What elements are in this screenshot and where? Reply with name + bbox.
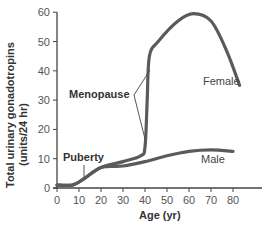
x-tick-label: 0 [54, 194, 60, 206]
y-tick-label: 10 [38, 153, 50, 165]
y-tick-label: 50 [38, 36, 50, 48]
male-series-label: Male [201, 153, 225, 165]
y-tick-label: 40 [38, 65, 50, 77]
female-series-label: Female [203, 75, 240, 87]
y-tick-label: 30 [38, 94, 50, 106]
puberty-label: Puberty [63, 151, 105, 163]
x-axis-title: Age (yr) [139, 209, 181, 221]
x-tick-label: 60 [183, 194, 195, 206]
x-tick-label: 10 [73, 194, 85, 206]
y-tick-label: 0 [44, 182, 50, 194]
y-axis-title: Total urinary gonadotropins (units/24 hr… [4, 42, 29, 188]
y-tick-label: 20 [38, 123, 50, 135]
menopause-label: Menopause [69, 88, 130, 100]
x-tick-label: 50 [161, 194, 173, 206]
gonadotropin-line-chart: 010203040506001020304050607080 Puberty M… [0, 0, 267, 233]
x-tick-label: 20 [95, 194, 107, 206]
axes: 010203040506001020304050607080 [38, 6, 262, 206]
x-tick-label: 80 [227, 194, 239, 206]
x-tick-label: 40 [139, 194, 151, 206]
annotations: Puberty Menopause Female Male [63, 70, 240, 180]
x-tick-label: 70 [205, 194, 217, 206]
y-axis-title-line1: Total urinary gonadotropins [4, 42, 16, 188]
x-tick-label: 30 [117, 194, 129, 206]
y-axis-title-line2: (units/24 hr) [17, 103, 29, 166]
y-tick-label: 60 [38, 6, 50, 18]
